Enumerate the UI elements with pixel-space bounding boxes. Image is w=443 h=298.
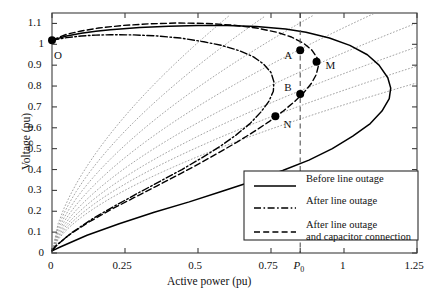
point-label-m: M [326, 59, 336, 71]
marker-point-o [48, 36, 56, 44]
y-tick-label: 0.1 [28, 225, 42, 237]
x-tick-label: 1 [340, 259, 346, 271]
x-tick-label: 0.75 [258, 259, 277, 271]
y-tick-label: 0.9 [28, 58, 42, 70]
marker-point-m [313, 58, 321, 66]
y-tick-label: 0.8 [28, 79, 42, 91]
x-tick-label: P0 [293, 259, 304, 274]
point-label-b: B [284, 81, 291, 93]
point-label-a: A [284, 49, 292, 61]
y-tick-label: 1 [39, 37, 45, 49]
marker-point-b [296, 90, 304, 98]
marker-point-n [271, 112, 279, 120]
y-tick-label: 0.7 [28, 100, 42, 112]
x-tick-label: 0 [48, 259, 54, 271]
point-label-o: O [54, 49, 62, 61]
voltage-active-power-chart [0, 0, 443, 298]
x-tick-label: 0.25 [112, 259, 131, 271]
x-axis-title: Active power (pu) [167, 275, 251, 287]
x-tick-label: 0.5 [188, 259, 202, 271]
point-label-n: N [283, 118, 291, 130]
y-tick-label: 0 [39, 246, 45, 258]
legend-label: After line outage [306, 219, 377, 231]
legend-label-line2: and capacitor connection [306, 231, 411, 243]
y-tick-label: 1.1 [28, 16, 42, 28]
y-tick-label: 0.3 [28, 183, 42, 195]
legend-label: After line outage [306, 195, 377, 207]
legend-label: Before line outage [306, 173, 384, 185]
y-axis-title: Voltage (pu) [20, 113, 32, 170]
x-tick-label: 1.25 [404, 259, 423, 271]
y-tick-label: 0.2 [28, 204, 42, 216]
marker-point-a [296, 46, 304, 54]
